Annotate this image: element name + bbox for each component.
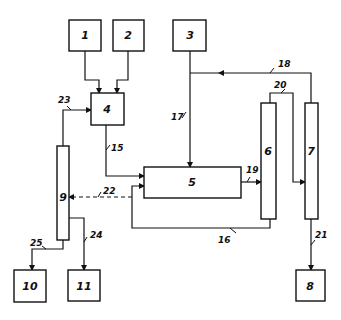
ref-15: 15 xyxy=(111,143,124,153)
stream-1-to-4 xyxy=(85,51,99,93)
node-11: 11 xyxy=(68,270,100,301)
stream-23 xyxy=(63,106,91,146)
svg-text:9: 9 xyxy=(59,191,67,204)
node-7-column: 7 xyxy=(305,103,318,219)
ref-17: 17 xyxy=(171,112,184,122)
ref-22: 22 xyxy=(103,186,116,196)
stream-21 xyxy=(311,219,315,270)
process-flow-diagram: 1 2 3 4 5 6 7 8 9 10 11 15 16 17 18 xyxy=(0,0,341,320)
ref-16: 16 xyxy=(218,235,231,245)
ref-25: 25 xyxy=(30,238,43,248)
stream-19 xyxy=(241,177,261,182)
ref-18: 18 xyxy=(278,59,291,69)
ref-23: 23 xyxy=(58,95,71,105)
node-1: 1 xyxy=(69,20,101,51)
ref-20: 20 xyxy=(274,80,287,90)
svg-text:8: 8 xyxy=(306,280,314,293)
svg-text:11: 11 xyxy=(76,280,91,293)
node-8: 8 xyxy=(296,270,325,301)
node-2: 2 xyxy=(113,20,144,51)
svg-text:7: 7 xyxy=(307,145,315,158)
svg-text:4: 4 xyxy=(102,103,111,116)
stream-24 xyxy=(69,218,87,270)
node-4: 4 xyxy=(91,93,124,125)
stream-2-to-4 xyxy=(117,51,128,93)
node-3: 3 xyxy=(173,20,206,51)
svg-text:6: 6 xyxy=(264,145,272,158)
node-5: 5 xyxy=(144,167,241,198)
node-6-column: 6 xyxy=(261,103,276,219)
ref-19: 19 xyxy=(246,165,259,175)
stream-17 xyxy=(182,51,190,167)
svg-text:3: 3 xyxy=(186,29,194,42)
svg-text:2: 2 xyxy=(124,29,132,42)
node-9-column: 9 xyxy=(57,146,69,240)
svg-text:1: 1 xyxy=(81,29,89,42)
ref-21: 21 xyxy=(315,230,328,240)
node-10: 10 xyxy=(14,270,46,302)
svg-text:10: 10 xyxy=(22,280,38,293)
ref-24: 24 xyxy=(90,230,103,240)
svg-text:5: 5 xyxy=(188,176,196,189)
stream-22 xyxy=(69,192,132,197)
